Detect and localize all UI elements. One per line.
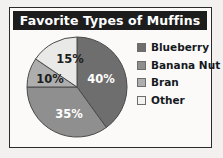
legend-swatch-blueberry [137, 43, 146, 52]
legend-item-bran[interactable]: Bran [137, 75, 209, 90]
chart-legend: Blueberry Banana Nut Bran Other [137, 40, 209, 110]
pie-label-other: 15% [56, 52, 84, 66]
pie-label-blueberry: 40% [87, 72, 115, 86]
legend-item-other[interactable]: Other [137, 93, 209, 108]
pie-label-bran: 10% [36, 72, 64, 86]
chart-card: Favorite Types of Muffins 40% 35% 10% 15… [9, 7, 212, 148]
pie-label-banana-nut: 35% [55, 107, 83, 121]
legend-item-blueberry[interactable]: Blueberry [137, 40, 209, 55]
legend-label-banana-nut: Banana Nut [151, 60, 220, 71]
pie-chart-svg: 40% 35% 10% 15% [24, 34, 130, 140]
legend-swatch-banana-nut [137, 61, 146, 70]
legend-label-other: Other [151, 95, 185, 106]
legend-swatch-bran [137, 78, 146, 87]
legend-label-bran: Bran [151, 77, 179, 88]
plot-area: 40% 35% 10% 15% Blueberry Banana Nut Bra… [10, 32, 210, 146]
page-title: Favorite Types of Muffins [20, 13, 200, 28]
chart-title-bar: Favorite Types of Muffins [13, 11, 207, 30]
pie-chart: 40% 35% 10% 15% [24, 34, 130, 140]
legend-label-blueberry: Blueberry [151, 42, 209, 53]
legend-item-banana-nut[interactable]: Banana Nut [137, 58, 209, 73]
legend-swatch-other [137, 96, 146, 105]
